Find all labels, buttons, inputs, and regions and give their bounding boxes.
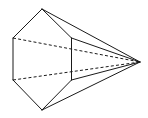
hexagonal-pyramid-diagram [0,0,148,118]
visible-edge-AB [13,9,42,38]
hidden-edge-BP [13,38,140,62]
visible-edge-DE [42,80,72,110]
visible-edge-FP [72,38,141,62]
visible-edge-FA [42,9,72,38]
visible-edge-AP [42,9,140,62]
visible-edge-EP [72,62,141,80]
visible-edge-CD [13,80,42,110]
pyramid-edges [13,9,140,110]
